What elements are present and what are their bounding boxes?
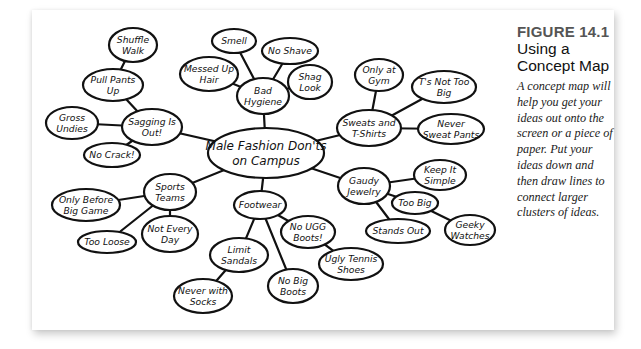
concept-node-toobig: Too Big	[392, 192, 438, 214]
concept-node-pullpants: Pull PantsUp	[83, 69, 143, 101]
node-label: Not Every	[147, 223, 193, 234]
node-label: Messed Up	[184, 63, 234, 74]
figure-title: Using a Concept Map	[517, 40, 613, 74]
concept-node-keep: Keep ItSimple	[414, 160, 466, 190]
node-label: Ugly Tennis	[325, 253, 378, 264]
concept-node-nougg: No UGGBoots!	[281, 216, 335, 248]
node-label: No Shave	[268, 45, 312, 56]
node-label: Never	[437, 118, 466, 129]
concept-node-ugly: Ugly TennisShoes	[319, 248, 383, 280]
node-label: Hygiene	[244, 96, 282, 107]
concept-node-tsnot: T's Not TooBig	[412, 71, 476, 103]
node-label: Out!	[142, 127, 162, 138]
concept-node-sagging: Sagging IsOut!	[122, 109, 182, 145]
node-label: Smell	[221, 35, 247, 46]
node-label: Only Before	[59, 194, 114, 205]
node-label: Geeky	[455, 219, 485, 230]
node-label: Shag	[298, 71, 321, 82]
concept-node-gross: GrossUndies	[46, 107, 98, 139]
concept-node-never: NeverSweat Pants	[418, 114, 484, 144]
node-label: Footwear	[239, 199, 283, 210]
node-label: Watches	[450, 230, 489, 241]
node-label: Bad	[254, 85, 272, 96]
concept-node-stands: Stands Out	[366, 219, 430, 243]
concept-node-notevery: Not EveryDay	[142, 216, 198, 252]
figure-number: FIGURE 14.1	[517, 23, 613, 40]
concept-node-sweats: Sweats andT-Shirts	[337, 110, 401, 146]
concept-node-nocrack: No Crack!	[84, 143, 140, 167]
figure-caption: FIGURE 14.1 Using a Concept Map A concep…	[517, 23, 613, 221]
concept-node-nobig: No BigBoots	[268, 269, 318, 303]
node-label: Big Game	[64, 205, 109, 216]
concept-node-main: Male Fashion Don'tson Campus	[206, 128, 327, 178]
concept-node-gaudy: GaudyJewelry	[338, 168, 390, 204]
node-label: Gaudy	[349, 175, 379, 186]
node-label: Stands Out	[372, 225, 423, 236]
node-label: on Campus	[232, 154, 300, 168]
node-label: Socks	[190, 296, 217, 307]
node-label: Undies	[56, 123, 88, 134]
concept-node-smell: Smell	[212, 29, 256, 53]
node-label: Sagging Is	[128, 116, 176, 127]
concept-node-tooloose: Too Loose	[78, 231, 136, 253]
node-label: Sports	[155, 181, 185, 192]
node-label: Boots!	[293, 232, 323, 243]
concept-node-socks: Never withSocks	[174, 279, 232, 313]
concept-node-hygiene: BadHygiene	[237, 78, 289, 114]
node-label: Sweats and	[342, 117, 395, 128]
concept-node-noshave: No Shave	[262, 38, 318, 64]
node-label: Teams	[155, 192, 185, 203]
figure-description: A concept map will help you get your ide…	[517, 79, 613, 221]
node-label: T-Shirts	[352, 128, 386, 139]
concept-node-geeky: GeekyWatches	[445, 215, 495, 245]
node-label: Walk	[122, 45, 145, 56]
node-label: Only at	[362, 64, 396, 75]
node-label: Gym	[368, 75, 390, 86]
node-label: Shoes	[337, 264, 365, 275]
node-label: Simple	[424, 175, 456, 186]
concept-node-onlybefore: Only BeforeBig Game	[52, 189, 120, 221]
node-label: Never with	[178, 285, 228, 296]
node-label: Too Big	[398, 197, 431, 208]
node-label: Sweat Pants	[423, 129, 480, 140]
concept-node-footwear: Footwear	[234, 191, 286, 219]
node-label: Day	[161, 234, 180, 245]
node-label: Pull Pants	[91, 74, 136, 85]
node-label: No Big	[278, 275, 308, 286]
node-label: Jewelry	[345, 186, 381, 197]
concept-node-shag: ShagLook	[288, 65, 332, 99]
node-label: Too Loose	[84, 236, 130, 247]
node-label: Up	[107, 85, 120, 96]
node-label: Hair	[200, 74, 220, 85]
node-label: No UGG	[290, 221, 326, 232]
node-label: Boots	[280, 286, 306, 297]
node-label: No Crack!	[89, 149, 134, 160]
concept-node-shuffle: ShuffleWalk	[109, 28, 157, 62]
node-label: Shuffle	[117, 34, 150, 45]
node-label: Sandals	[221, 255, 257, 266]
node-label: Gross	[59, 112, 85, 123]
node-label: Male Fashion Don'ts	[206, 139, 327, 153]
concept-node-sports: SportsTeams	[144, 174, 196, 210]
node-label: Look	[299, 82, 321, 93]
node-label: T's Not Too	[419, 76, 470, 87]
node-label: Keep It	[424, 164, 456, 175]
node-label: Big	[437, 87, 452, 98]
concept-node-limit: LimitSandals	[210, 238, 268, 272]
concept-node-messed: Messed UpHair	[180, 57, 238, 91]
concept-node-gym: Only atGym	[355, 59, 403, 91]
node-label: Limit	[228, 244, 251, 255]
concept-nodes: Male Fashion Don'tson CampusSagging IsOu…	[46, 28, 495, 313]
